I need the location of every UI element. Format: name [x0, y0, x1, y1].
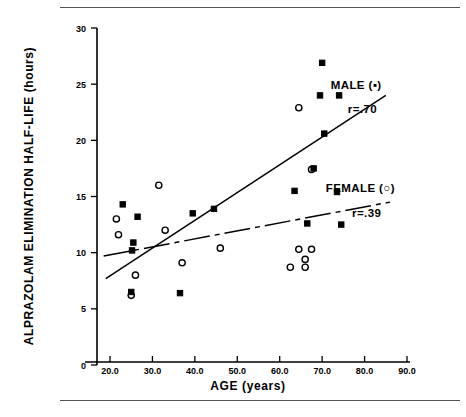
y-tick-label: 0: [81, 361, 86, 371]
legend-annotation: r=.39: [352, 207, 381, 219]
x-tick-label: 50.0: [229, 366, 247, 376]
male-data-points: [120, 60, 344, 296]
figure-panel: 051015202530 20.030.040.050.060.070.080.…: [0, 0, 466, 417]
data-point-male: [129, 248, 134, 253]
y-axis-title: ALPRAZOLAM ELIMINATION HALF-LIFE (hours): [22, 47, 36, 345]
data-point-male: [135, 214, 140, 219]
y-tick-label: 25: [76, 80, 86, 90]
data-point-male: [339, 222, 344, 227]
x-axis-tick-labels: 20.030.040.050.060.070.080.090.0: [101, 366, 416, 376]
x-tick-label: 20.0: [101, 366, 119, 376]
data-point-female: [296, 246, 302, 252]
data-point-male: [305, 221, 310, 226]
data-point-male: [120, 202, 125, 207]
data-point-female: [113, 216, 119, 222]
y-tick-label: 15: [76, 192, 86, 202]
data-point-female: [179, 260, 185, 266]
data-point-male: [292, 188, 297, 193]
x-tick-label: 80.0: [356, 366, 374, 376]
data-point-male: [190, 211, 195, 216]
legend-annotation: MALE (▪): [331, 79, 382, 91]
data-point-female: [162, 227, 168, 233]
female-data-points: [113, 105, 314, 299]
x-tick-label: 60.0: [271, 366, 289, 376]
data-point-female: [287, 264, 293, 270]
legend: MALE (▪)r=.70FEMALE (○)r=.39: [326, 79, 395, 219]
x-axis-title: AGE (years): [210, 379, 285, 393]
data-point-male: [336, 93, 341, 98]
regression-line-female: [104, 202, 390, 256]
data-point-male: [322, 131, 327, 136]
data-point-male: [319, 60, 324, 65]
y-axis-ticks: [91, 28, 97, 365]
y-tick-label: 30: [76, 24, 86, 34]
data-point-male: [211, 206, 216, 211]
data-point-male: [129, 289, 134, 294]
legend-annotation: FEMALE (○): [326, 182, 395, 194]
y-tick-label: 20: [76, 136, 86, 146]
y-axis-tick-labels: 051015202530: [76, 24, 86, 371]
x-tick-label: 70.0: [313, 366, 331, 376]
legend-annotation: r=.70: [348, 103, 377, 115]
data-point-male: [177, 290, 182, 295]
data-point-female: [132, 272, 138, 278]
x-axis-ticks: [110, 356, 407, 362]
x-tick-label: 30.0: [144, 366, 162, 376]
x-tick-label: 40.0: [186, 366, 204, 376]
data-point-male: [131, 240, 136, 245]
data-point-female: [302, 264, 308, 270]
data-point-female: [296, 105, 302, 111]
data-point-female: [115, 232, 121, 238]
x-tick-label: 90.0: [398, 366, 416, 376]
y-tick-label: 10: [76, 248, 86, 258]
data-point-female: [302, 256, 308, 262]
y-tick-label: 5: [81, 304, 86, 314]
data-point-male: [317, 93, 322, 98]
data-point-female: [308, 246, 314, 252]
data-point-female: [156, 182, 162, 188]
data-point-male: [311, 166, 316, 171]
data-point-female: [217, 245, 223, 251]
scatter-plot-svg: 051015202530 20.030.040.050.060.070.080.…: [0, 0, 466, 417]
